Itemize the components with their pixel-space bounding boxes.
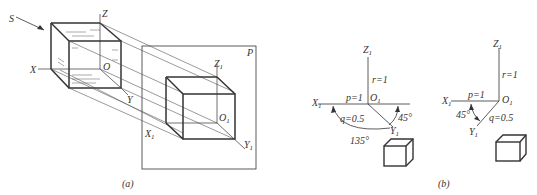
oblique-projection-diagram: S Z X O Y P Z1 O1 X1 Y1 (a) Z1 r=1 p=1 O…: [0, 0, 537, 195]
b-left-label-r: r=1: [372, 74, 388, 85]
figure-a: [16, 14, 256, 169]
label-o: O: [103, 61, 110, 72]
b-right-label-p: p=1: [467, 89, 485, 100]
label-y: Y: [127, 94, 134, 105]
b-left-label-x1: X1: [311, 97, 322, 110]
b-left-label-45: 45°: [398, 112, 412, 123]
label-p: P: [246, 47, 253, 58]
projection-plane: [142, 46, 256, 169]
b-right-label-y1: Y1: [469, 126, 478, 139]
b-right-label-x1: X1: [441, 95, 452, 108]
label-x1: X1: [144, 128, 155, 141]
b-left-label-q: q=0.5: [340, 113, 364, 124]
label-z1: Z1: [214, 58, 223, 71]
label-s: S: [9, 13, 14, 24]
label-o1: O1: [219, 112, 230, 125]
caption-a: (a): [122, 178, 134, 190]
figure-b-right: [451, 48, 526, 161]
b-left-label-o1: O1: [370, 92, 381, 105]
original-cube: [51, 23, 121, 88]
b-right-label-45: 45°: [456, 109, 470, 120]
b-right-label-r: r=1: [502, 69, 518, 80]
caption-b: (b): [438, 178, 450, 190]
b-right-label-q: q=0.5: [489, 112, 513, 123]
b-left-label-z1: Z1: [363, 44, 372, 57]
label-x: X: [29, 64, 37, 75]
b-left-label-p: p=1: [345, 92, 363, 103]
b-right-label-z1: Z1: [493, 38, 502, 51]
projected-cube: [166, 64, 245, 149]
b-right-label-o1: O1: [502, 94, 513, 107]
label-z: Z: [102, 8, 108, 19]
label-y1: Y1: [244, 139, 253, 152]
b-left-label-135: 135°: [350, 135, 369, 146]
b-left-label-y1: Y1: [390, 125, 399, 138]
